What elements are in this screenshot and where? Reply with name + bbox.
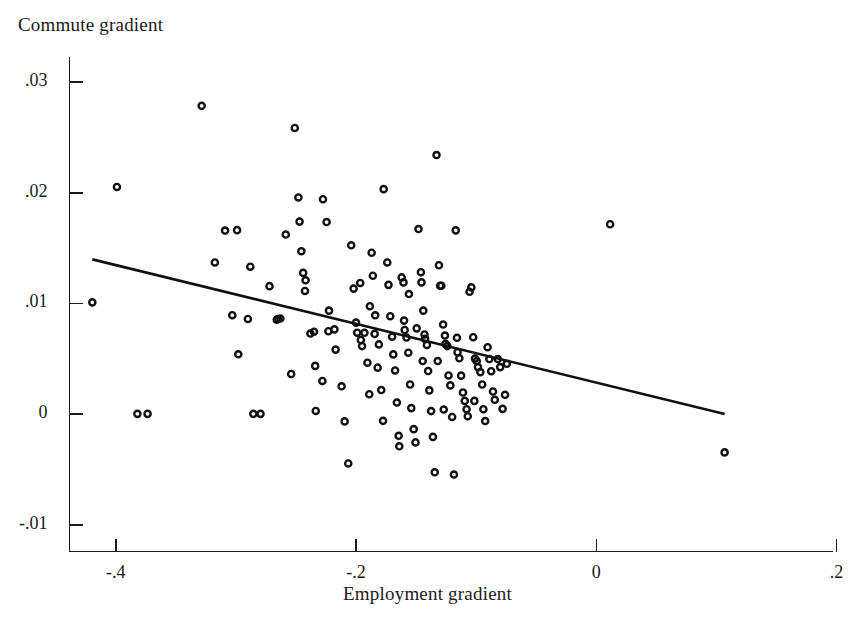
x-tick-label: 0: [556, 562, 636, 583]
scatter-point: [471, 398, 477, 404]
scatter-plot-figure: Commute gradient -.010.01.02.03 -.4-.20.…: [0, 0, 855, 619]
scatter-point: [247, 264, 253, 270]
scatter-point: [463, 406, 469, 412]
scatter-point: [401, 318, 407, 324]
scatter-point: [380, 418, 386, 424]
y-tick-label: 0: [0, 402, 48, 423]
scatter-point: [245, 316, 251, 322]
scatter-point: [387, 313, 393, 319]
scatter-point: [298, 248, 304, 254]
scatter-point: [441, 406, 447, 412]
scatter-point: [342, 418, 348, 424]
scatter-point: [449, 414, 455, 420]
scatter-point: [257, 411, 263, 417]
scatter-point: [283, 231, 289, 237]
scatter-point: [425, 368, 431, 374]
scatter-point: [312, 363, 318, 369]
scatter-point: [451, 471, 457, 477]
fit-line: [92, 259, 724, 414]
scatter-point: [89, 299, 95, 305]
scatter-point: [292, 125, 298, 131]
scatter-point: [440, 321, 446, 327]
scatter-point: [333, 347, 339, 353]
scatter-point: [357, 280, 363, 286]
scatter-point: [477, 369, 483, 375]
scatter-point: [442, 332, 448, 338]
regression-line: [92, 259, 724, 414]
scatter-point: [411, 426, 417, 432]
scatter-point: [302, 277, 308, 283]
scatter-point: [502, 392, 508, 398]
scatter-point: [376, 341, 382, 347]
scatter-point: [222, 227, 228, 233]
scatter-point: [488, 368, 494, 374]
scatter-point: [234, 227, 240, 233]
scatter-point: [414, 325, 420, 331]
scatter-point: [428, 408, 434, 414]
scatter-point: [447, 382, 453, 388]
scatter-point: [453, 227, 459, 233]
scatter-point: [462, 398, 468, 404]
scatter-point: [405, 350, 411, 356]
scatter-point: [418, 269, 424, 275]
scatter-point: [465, 413, 471, 419]
scatter-point: [445, 372, 451, 378]
scatter-point: [378, 387, 384, 393]
scatter-point: [412, 439, 418, 445]
scatter-point: [490, 388, 496, 394]
scatter-point: [497, 364, 503, 370]
scatter-point: [438, 283, 444, 289]
scatter-point: [235, 351, 241, 357]
scatter-point: [372, 312, 378, 318]
scatter-point: [460, 389, 466, 395]
x-tick-label: .2: [797, 562, 855, 583]
scatter-point: [359, 343, 365, 349]
scatter-point: [454, 335, 460, 341]
y-tick-label: -.01: [0, 513, 48, 534]
scatter-point: [320, 196, 326, 202]
y-tick-label: .02: [0, 181, 48, 202]
y-tick-label: .01: [0, 291, 48, 312]
tick-marks: [70, 82, 837, 552]
scatter-point: [199, 103, 205, 109]
scatter-point: [369, 250, 375, 256]
scatter-point: [384, 259, 390, 265]
scatter-point: [426, 387, 432, 393]
scatter-point: [250, 411, 256, 417]
scatter-point: [492, 397, 498, 403]
scatter-point: [366, 391, 372, 397]
scatter-point: [420, 358, 426, 364]
scatter-point: [288, 371, 294, 377]
scatter-point: [348, 242, 354, 248]
scatter-point: [354, 330, 360, 336]
scatter-point: [331, 326, 337, 332]
scatter-point: [351, 286, 357, 292]
scatter-point: [402, 327, 408, 333]
scatter-point: [396, 433, 402, 439]
plot-canvas: [0, 0, 855, 619]
scatter-point: [390, 351, 396, 357]
scatter-point: [300, 270, 306, 276]
scatter-point: [370, 273, 376, 279]
scatter-point: [500, 406, 506, 412]
scatter-point: [326, 308, 332, 314]
scatter-point: [266, 283, 272, 289]
scatter-point: [607, 221, 613, 227]
scatter-point: [134, 411, 140, 417]
x-tick-label: -.4: [76, 562, 156, 583]
scatter-point: [367, 303, 373, 309]
scatter-point: [144, 411, 150, 417]
scatter-point: [114, 184, 120, 190]
scatter-point: [372, 331, 378, 337]
scatter-point: [408, 405, 414, 411]
scatter-point: [212, 259, 218, 265]
scatter-point: [229, 312, 235, 318]
scatter-point: [345, 460, 351, 466]
data-points: [89, 103, 727, 478]
scatter-point: [339, 383, 345, 389]
scatter-point: [480, 406, 486, 412]
scatter-point: [295, 194, 301, 200]
scatter-point: [433, 152, 439, 158]
scatter-point: [364, 360, 370, 366]
scatter-point: [482, 418, 488, 424]
